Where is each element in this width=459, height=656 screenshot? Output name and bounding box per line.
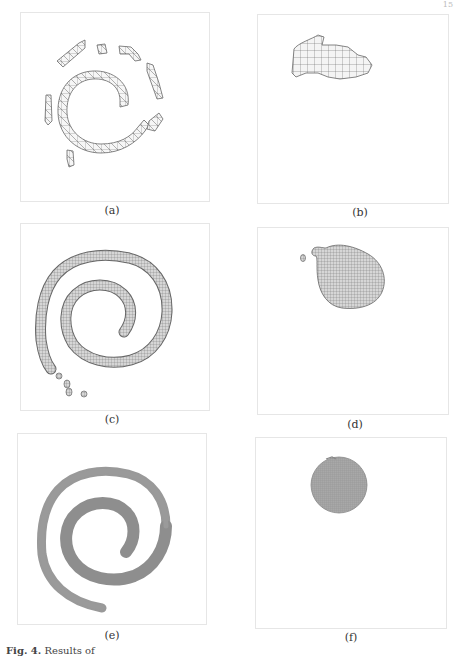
panel-d <box>257 227 449 415</box>
panel-c <box>20 223 210 411</box>
caption-text: Results of <box>44 645 94 656</box>
caption-label: Fig. 4. <box>6 645 41 656</box>
page-number: 15 <box>443 0 453 9</box>
panel-e-label: (e) <box>92 629 132 642</box>
panel-b-label: (b) <box>340 206 380 219</box>
panel-f <box>255 437 447 629</box>
figure-caption: Fig. 4. Results of <box>6 645 95 656</box>
spiral-medium-mesh <box>21 224 209 410</box>
disc-fine-mesh <box>256 438 446 628</box>
blob-medium-mesh <box>258 228 448 414</box>
spiral-fine-mesh <box>18 434 206 624</box>
panel-c-label: (c) <box>92 413 132 426</box>
panel-f-label: (f) <box>331 631 371 644</box>
spiral-fragments-coarse-mesh <box>21 13 209 201</box>
panel-e <box>17 433 207 625</box>
panel-d-label: (d) <box>335 418 375 431</box>
blob-coarse-mesh <box>258 15 448 203</box>
panel-a-label: (a) <box>92 204 132 217</box>
panel-b <box>257 14 449 204</box>
panel-a <box>20 12 210 202</box>
